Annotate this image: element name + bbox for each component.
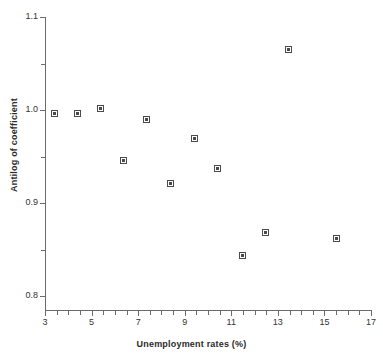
x-tick-minor (313, 311, 314, 315)
x-tick-minor (115, 311, 116, 315)
x-tick-minor (255, 311, 256, 315)
x-axis-title: Unemployment rates (%) (0, 339, 383, 349)
data-point (214, 165, 221, 172)
x-tick-label: 9 (173, 318, 197, 327)
x-tick-minor (161, 311, 162, 315)
data-point (74, 110, 81, 117)
x-tick-label: 15 (312, 318, 336, 327)
y-axis-title: Antilog of coefficient (9, 65, 19, 225)
y-tick-label: 1.0 (2, 105, 38, 114)
x-tick-minor (243, 311, 244, 315)
y-tick-label: 0.9 (2, 198, 38, 207)
x-tick-minor (57, 311, 58, 315)
x-tick-major (231, 311, 232, 316)
x-tick-major (92, 311, 93, 316)
y-tick-label: 0.8 (2, 291, 38, 300)
x-tick-label: 11 (219, 318, 243, 327)
data-point (120, 157, 127, 164)
x-tick-minor (348, 311, 349, 315)
x-tick-minor (208, 311, 209, 315)
x-tick-minor (127, 311, 128, 315)
x-tick-label: 17 (359, 318, 383, 327)
x-tick-minor (103, 311, 104, 315)
x-tick-minor (68, 311, 69, 315)
data-point (51, 110, 58, 117)
data-point (167, 180, 174, 187)
x-tick-label: 5 (80, 318, 104, 327)
data-point (285, 46, 292, 53)
scatter-chart-figure: 0.80.91.01.1 357911131517 Antilog of coe… (0, 0, 383, 356)
plot-area (45, 17, 371, 310)
x-tick-label: 7 (126, 318, 150, 327)
data-point (97, 105, 104, 112)
x-tick-major (278, 311, 279, 316)
x-tick-minor (150, 311, 151, 315)
x-tick-major (138, 311, 139, 316)
data-point (191, 135, 198, 142)
x-tick-minor (220, 311, 221, 315)
x-tick-minor (266, 311, 267, 315)
x-tick-minor (196, 311, 197, 315)
x-tick-minor (359, 311, 360, 315)
x-tick-minor (80, 311, 81, 315)
x-tick-major (371, 311, 372, 316)
data-point (333, 235, 340, 242)
data-point (143, 116, 150, 123)
x-tick-label: 13 (266, 318, 290, 327)
x-tick-label: 3 (33, 318, 57, 327)
x-tick-minor (301, 311, 302, 315)
x-tick-major (185, 311, 186, 316)
x-tick-minor (336, 311, 337, 315)
x-tick-minor (290, 311, 291, 315)
x-tick-minor (173, 311, 174, 315)
data-point (239, 252, 246, 259)
x-tick-major (324, 311, 325, 316)
x-tick-major (45, 311, 46, 316)
y-tick-label: 1.1 (2, 12, 38, 21)
data-point (262, 229, 269, 236)
